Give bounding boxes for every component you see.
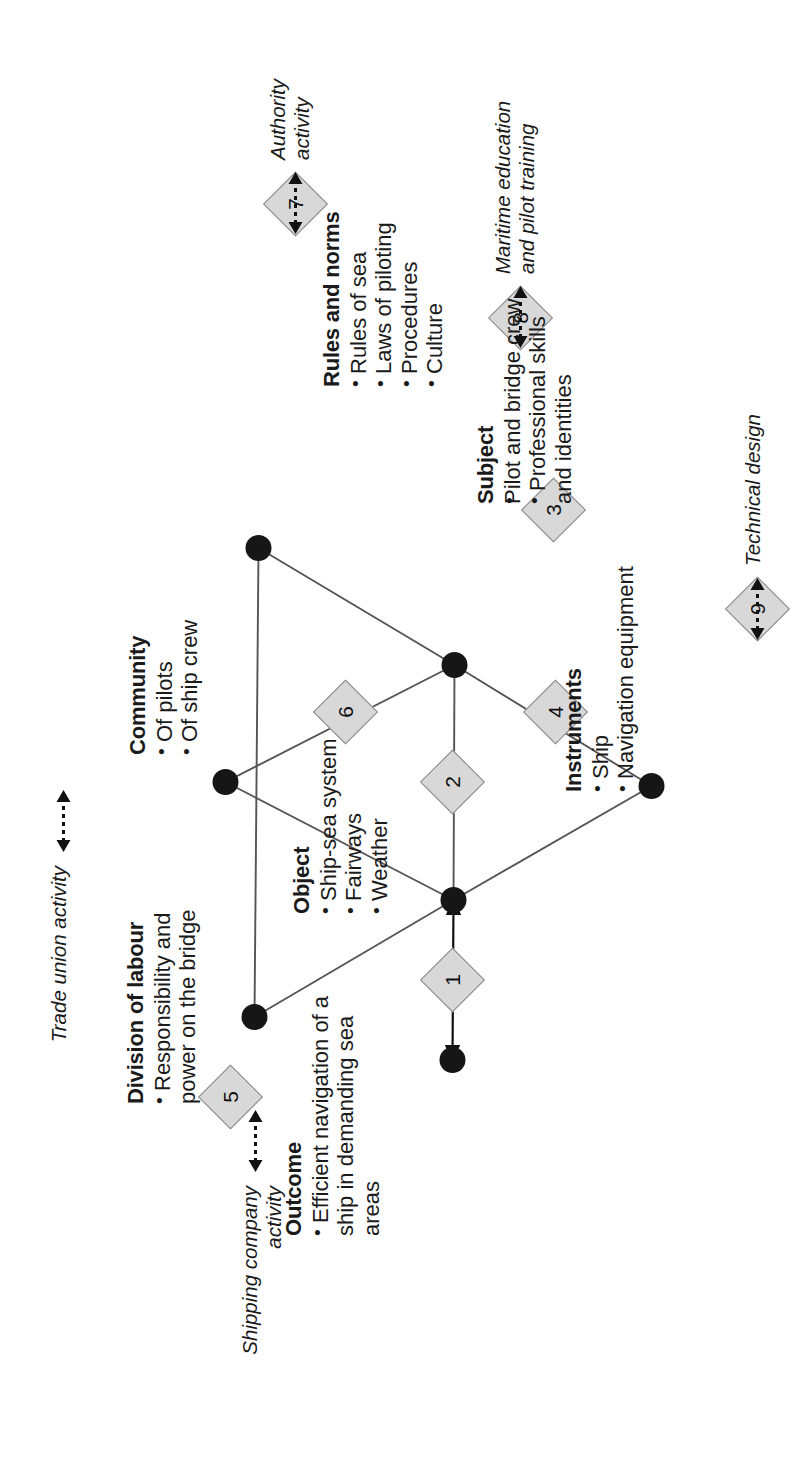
node-rules[interactable] — [245, 535, 271, 561]
dashed-arrow-shipping — [238, 1110, 272, 1172]
node-instruments[interactable] — [638, 773, 664, 799]
authority-line-1: Authority — [265, 0, 289, 160]
authority-line-2: activity — [289, 0, 313, 160]
list-item: Culture — [421, 87, 447, 387]
shipping-line-1: Shipping company — [237, 1186, 261, 1472]
list-item: Responsibility and power on the bridge — [149, 774, 200, 1104]
list-item: Of ship crew — [176, 455, 202, 755]
dashed-arrow-trade-union — [46, 790, 80, 852]
list-item: Weather — [366, 614, 392, 914]
neighbour-activity-trade-union: Trade union activity — [46, 866, 70, 1152]
label-object-title: Object — [288, 614, 314, 914]
contradiction-label-2: 2 — [430, 759, 476, 805]
label-rules-bullets: Rules of sea Laws of piloting Procedures… — [345, 87, 447, 387]
list-item: Procedures — [396, 87, 422, 387]
node-division-of-labour[interactable] — [241, 1004, 267, 1030]
list-item: Of pilots — [151, 455, 177, 755]
label-instruments: Instruments Ship Navigation equipment — [560, 462, 638, 792]
node-subject[interactable] — [441, 652, 467, 678]
label-object-bullets: Ship-sea system Fairways Weather — [315, 614, 392, 914]
label-object: Object Ship-sea system Fairways Weather — [288, 614, 391, 914]
neighbour-activity-technical-design: Technical design — [740, 246, 764, 566]
list-item: Ship-sea system — [315, 614, 341, 914]
edge-division-community — [225, 782, 254, 1017]
label-community: Community Of pilots Of ship crew — [124, 455, 202, 755]
dashed-arrow-authority — [278, 172, 312, 234]
list-item: Navigation equipment — [612, 462, 638, 792]
maritime-line-2: and pilot training — [514, 0, 538, 274]
node-object[interactable] — [440, 887, 466, 913]
edge-instruments-object — [453, 786, 651, 900]
label-community-bullets: Of pilots Of ship crew — [151, 455, 202, 755]
outcome-bullet-line-1: Efficient navigation of a — [307, 996, 332, 1223]
dashed-arrow-maritime-education — [503, 286, 537, 348]
contradiction-label-1: 1 — [430, 957, 476, 1003]
shipping-line-2: activity — [261, 1186, 285, 1472]
technical-design-line-1: Technical design — [740, 246, 764, 566]
activity-system-canvas: 1 2 3 4 5 6 7 8 9 Outcome — [0, 0, 803, 1472]
outcome-bullet-line-2: ship in demanding sea — [332, 1016, 358, 1236]
subject-bullet-line-2: and identities — [550, 374, 576, 504]
list-item: Efficient navigation of a ship in demand… — [307, 906, 384, 1236]
label-division-bullets: Responsibility and power on the bridge — [149, 774, 200, 1104]
neighbour-activity-shipping: Shipping company activity — [237, 1186, 285, 1472]
node-outcome[interactable] — [439, 1047, 465, 1073]
label-rules-and-norms: Rules and norms Rules of sea Laws of pil… — [318, 87, 447, 387]
dashed-arrow-technical-design — [740, 578, 774, 640]
label-instruments-bullets: Ship Navigation equipment — [587, 462, 638, 792]
label-division-of-labour: Division of labour Responsibility and po… — [122, 774, 200, 1104]
label-rules-title: Rules and norms — [318, 87, 344, 387]
neighbour-activity-maritime-education: Maritime education and pilot training — [490, 0, 538, 274]
edge-division-rules — [254, 548, 258, 1017]
trade-union-line-1: Trade union activity — [46, 866, 70, 1152]
label-outcome: Outcome Efficient navigation of a ship i… — [280, 906, 383, 1236]
diagram-page: 1 2 3 4 5 6 7 8 9 Outcome — [0, 0, 803, 1472]
list-item: Rules of sea — [345, 87, 371, 387]
label-instruments-title: Instruments — [560, 462, 586, 792]
list-item: Laws of piloting — [370, 87, 396, 387]
list-item: Ship — [587, 462, 613, 792]
node-community[interactable] — [212, 769, 238, 795]
outcome-bullet-line-3: areas — [358, 1181, 384, 1236]
label-division-title: Division of labour — [122, 774, 148, 1104]
label-outcome-bullets: Efficient navigation of a ship in demand… — [307, 906, 384, 1236]
neighbour-activity-authority: Authority activity — [265, 0, 313, 160]
division-bullet-line-1: Responsibility and — [149, 912, 174, 1091]
label-community-title: Community — [124, 455, 150, 755]
list-item: Fairways — [340, 614, 366, 914]
maritime-line-1: Maritime education — [490, 0, 514, 274]
division-bullet-line-2: power on the bridge — [174, 910, 200, 1104]
